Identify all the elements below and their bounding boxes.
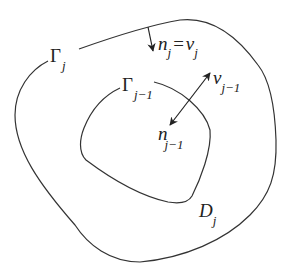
outer-boundary-label: Γj bbox=[50, 45, 66, 73]
inner-boundary-label: Γj−1 bbox=[122, 74, 153, 102]
diagram-canvas: Γj nj=vj Γj−1 vj−1 nj−1 Dj bbox=[0, 0, 289, 272]
inner-outward-vector-label: vj−1 bbox=[213, 67, 240, 95]
outer-normal-arrow bbox=[148, 27, 153, 51]
inner-normal-label: nj−1 bbox=[158, 123, 183, 152]
region-label: Dj bbox=[198, 200, 217, 228]
outer-normal-label: nj=vj bbox=[158, 33, 198, 60]
